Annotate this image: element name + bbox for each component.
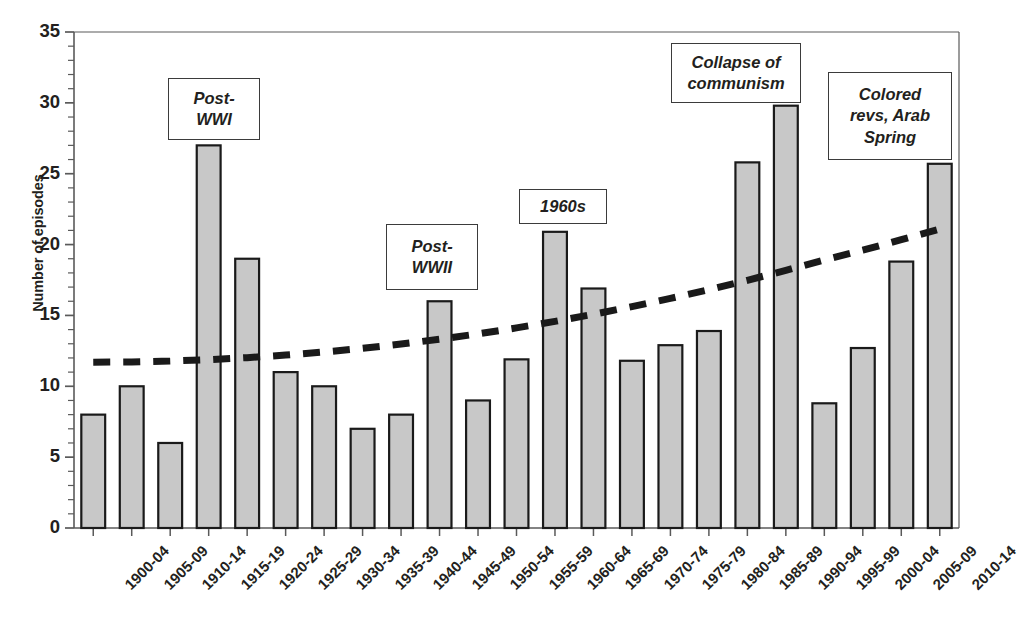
annotation-line: communism xyxy=(687,73,784,94)
bar-1960-64 xyxy=(543,232,567,528)
bar-1930-34 xyxy=(312,386,336,528)
bar-1935-39 xyxy=(351,429,375,528)
bar-1970-74 xyxy=(620,361,644,528)
annotation-colored-revs: Coloredrevs, ArabSpring xyxy=(828,72,952,160)
bar-1925-29 xyxy=(274,372,298,528)
bar-1910-14 xyxy=(158,443,182,528)
bar-1950-54 xyxy=(466,400,490,528)
bar-1920-24 xyxy=(235,259,259,528)
annotation-line: WWII xyxy=(412,257,452,278)
bar-2000-04 xyxy=(851,348,875,528)
annotation-line: WWI xyxy=(196,109,232,130)
annotation-line: 1960s xyxy=(540,196,586,217)
annotation-line: Post- xyxy=(411,236,452,257)
bar-1980-84 xyxy=(697,331,721,528)
annotation-collapse-communism: Collapse ofcommunism xyxy=(671,43,801,103)
bar-1915-19 xyxy=(197,145,221,528)
annotation-line: revs, Arab xyxy=(850,105,930,126)
annotation-post-wwi: Post-WWI xyxy=(168,78,260,140)
bar-1900-04 xyxy=(81,415,105,528)
annotation-line: Colored xyxy=(859,84,921,105)
annotation-nineteen-sixties: 1960s xyxy=(519,189,607,224)
bar-1945-49 xyxy=(428,301,452,528)
bar-1965-69 xyxy=(582,289,606,528)
bar-1975-79 xyxy=(658,345,682,528)
bar-1905-09 xyxy=(120,386,144,528)
annotation-post-wwii: Post-WWII xyxy=(386,224,478,290)
bar-1955-59 xyxy=(505,359,529,528)
bar-1940-44 xyxy=(389,415,413,528)
bar-1990-94 xyxy=(774,106,798,528)
annotation-line: Spring xyxy=(864,127,916,148)
bar-1985-89 xyxy=(735,162,759,528)
bar-2005-09 xyxy=(889,262,913,528)
annotation-line: Collapse of xyxy=(692,52,781,73)
annotation-line: Post- xyxy=(193,88,234,109)
bar-2010-14 xyxy=(928,164,952,528)
bar-1995-99 xyxy=(812,403,836,528)
